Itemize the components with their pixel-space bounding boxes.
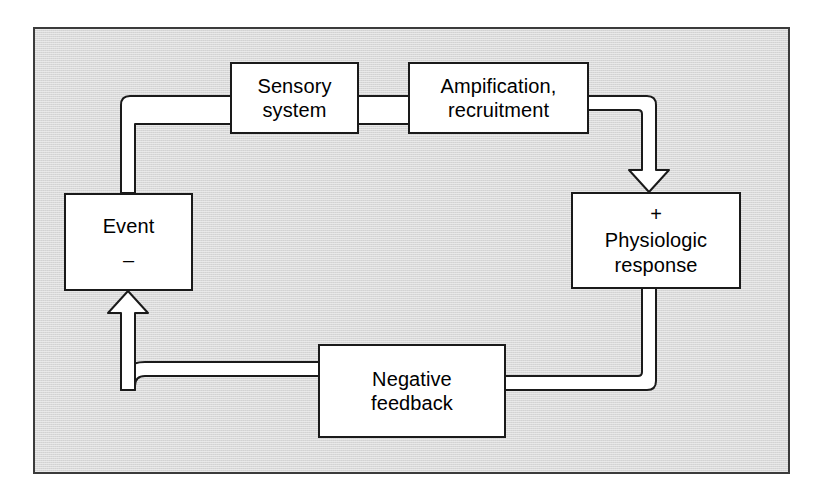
negative-feedback-node-label: Negative feedback <box>371 367 453 416</box>
event-node-label: Event <box>103 214 155 238</box>
physiologic-response-node-label: Physiologic response <box>605 228 707 277</box>
connector-physiologic-to-negative-feedback <box>505 288 656 390</box>
physiologic-response-node-sign: + <box>650 204 662 224</box>
connector-event-to-sensory <box>121 96 231 193</box>
event-node[interactable]: Event – <box>64 193 193 291</box>
sensory-system-node-label: Sensory system <box>257 74 331 123</box>
figure-root: .ribbon { fill: #ffffff; stroke: #1a1a1a… <box>0 0 819 498</box>
amplification-recruitment-node-label: Ampification, recruitment <box>441 74 557 123</box>
connector-sensory-to-amplification <box>357 96 410 124</box>
amplification-recruitment-node[interactable]: Ampification, recruitment <box>408 62 589 134</box>
connector-negative-feedback-to-event <box>121 362 319 390</box>
event-node-sign: – <box>123 250 134 270</box>
connector-amplification-to-physiologic <box>587 96 669 192</box>
negative-feedback-node[interactable]: Negative feedback <box>318 344 506 438</box>
physiologic-response-node[interactable]: + Physiologic response <box>571 192 741 289</box>
sensory-system-node[interactable]: Sensory system <box>230 62 359 134</box>
